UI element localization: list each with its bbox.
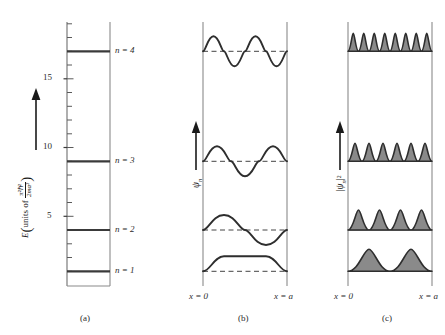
panel-b-axis-label: ψn bbox=[191, 179, 203, 188]
density-n2 bbox=[348, 210, 432, 230]
panel-a-tick-marks bbox=[67, 24, 74, 271]
level-label-n4: n = 4 bbox=[115, 45, 135, 55]
density-n1 bbox=[348, 249, 432, 271]
panel-c bbox=[336, 22, 432, 286]
energy-unit-fraction: π²ℏ² 2ma² bbox=[18, 182, 34, 198]
energy-symbol: E bbox=[20, 233, 30, 239]
panel-a-energy-levels bbox=[67, 51, 110, 271]
psi-sq-close: |² bbox=[335, 175, 345, 180]
panel-c-xlabel-right: x = a bbox=[419, 291, 438, 301]
panel-caption-a: (a) bbox=[80, 313, 90, 323]
close-paren: ) bbox=[18, 177, 34, 182]
level-label-n2: n = 2 bbox=[115, 224, 135, 234]
panel-b-xlabel-left: x = 0 bbox=[189, 291, 208, 301]
ytick-label-10: 10 bbox=[43, 141, 52, 151]
open-paren: ( bbox=[18, 228, 34, 233]
panel-a bbox=[32, 22, 110, 286]
energy-axis-label: E(units of π²ℏ² 2ma² ) bbox=[18, 177, 34, 238]
fraction-denominator: 2ma² bbox=[26, 182, 33, 198]
psi-sq-open: |ψ bbox=[335, 183, 345, 192]
density-n4 bbox=[348, 33, 432, 51]
panel-c-xlabel-left: x = 0 bbox=[334, 291, 353, 301]
wavefunction-n1 bbox=[203, 256, 287, 271]
figure-canvas bbox=[0, 0, 445, 335]
density-n3 bbox=[348, 143, 432, 161]
level-label-n1: n = 1 bbox=[115, 265, 135, 275]
panel-b-xlabel-right: x = a bbox=[274, 291, 293, 301]
panel-caption-c: (c) bbox=[382, 313, 392, 323]
panel-b-baselines bbox=[203, 51, 287, 271]
figure-infinite-square-well: 5 10 15 n = 1 n = 2 n = 3 n = 4 E(units … bbox=[0, 0, 445, 335]
panel-a-axis-arrow bbox=[32, 88, 41, 150]
psi-sq-subscript: n bbox=[340, 180, 347, 183]
panel-b bbox=[192, 22, 287, 286]
ytick-label-5: 5 bbox=[47, 210, 52, 220]
ytick-label-15: 15 bbox=[43, 72, 52, 82]
psi-symbol: ψ bbox=[191, 182, 201, 188]
panel-caption-b: (b) bbox=[238, 313, 249, 323]
panel-c-axis-label: |ψn|² bbox=[335, 175, 347, 192]
panel-c-axis-arrow bbox=[336, 121, 344, 170]
panel-b-axis-arrow bbox=[192, 121, 200, 170]
level-label-n3: n = 3 bbox=[115, 155, 135, 165]
psi-subscript: n bbox=[196, 179, 203, 182]
units-of-text: units of bbox=[20, 200, 30, 227]
